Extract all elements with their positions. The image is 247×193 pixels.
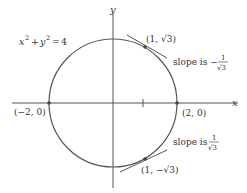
svg-text:√3: √3	[208, 144, 217, 152]
point-left	[47, 101, 51, 105]
svg-text:√3: √3	[217, 64, 226, 72]
svg-text:slope is −: slope is −	[173, 57, 218, 67]
svg-text:4: 4	[61, 36, 67, 47]
label-point-bottom: (1, −√3)	[141, 165, 178, 175]
slope-annotation-bottom: slope is 1 √3	[173, 134, 219, 152]
svg-text:2: 2	[25, 34, 29, 42]
svg-text:=: =	[52, 36, 60, 47]
svg-text:1: 1	[221, 54, 225, 62]
slope-annotation-top: slope is − 1 √3	[173, 54, 228, 72]
svg-text:y: y	[39, 36, 46, 47]
point-right	[175, 101, 179, 105]
svg-text:+: +	[31, 36, 39, 47]
label-point-right: (2, 0)	[182, 108, 206, 118]
point-bottom	[143, 157, 147, 161]
label-point-left: (−2, 0)	[14, 107, 46, 117]
equation-label: x 2 + y 2 = 4	[19, 34, 67, 47]
point-top	[143, 45, 147, 49]
y-axis-label: y	[109, 4, 116, 15]
svg-text:1: 1	[212, 134, 216, 142]
x-axis-label: x	[232, 97, 238, 108]
label-point-top: (1, √3)	[146, 34, 176, 44]
circle-diagram: y x x 2 + y 2 = 4 (1, √3) (1, −√3) (−2, …	[0, 0, 247, 193]
svg-text:slope is: slope is	[173, 137, 208, 147]
svg-text:2: 2	[46, 34, 50, 42]
